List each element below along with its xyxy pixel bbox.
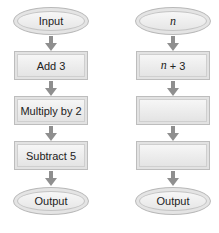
arrow-down-icon	[45, 171, 57, 186]
step-label	[137, 97, 209, 124]
arrow-down-icon	[167, 171, 179, 186]
left-flowchart: Input Add 3 Multiply by 2 Subtract 5 Out…	[13, 0, 89, 233]
step-label: Multiply by 2	[15, 97, 87, 124]
right-flowchart: n n + 3 Output	[135, 0, 211, 233]
variable-input-terminal: n	[135, 7, 211, 35]
input-terminal: Input	[13, 7, 89, 35]
arrow-down-icon	[167, 36, 179, 51]
step-add-3: Add 3	[14, 51, 88, 80]
step-blank-1	[136, 96, 210, 125]
arrow-down-icon	[45, 81, 57, 96]
arrow-down-icon	[167, 126, 179, 141]
output-terminal: Output	[13, 187, 89, 215]
expression-label: n + 3	[137, 52, 209, 79]
step-subtract-5: Subtract 5	[14, 141, 88, 170]
step-multiply-by-2: Multiply by 2	[14, 96, 88, 125]
step-blank-2	[136, 141, 210, 170]
step-n-plus-3: n + 3	[136, 51, 210, 80]
output-label: Output	[14, 188, 88, 214]
step-label: Add 3	[15, 52, 87, 79]
arrow-down-icon	[167, 81, 179, 96]
variable-label: n	[136, 8, 210, 34]
arrow-down-icon	[45, 126, 57, 141]
output-label: Output	[136, 188, 210, 214]
step-label	[137, 142, 209, 169]
output-terminal: Output	[135, 187, 211, 215]
arrow-down-icon	[45, 36, 57, 51]
step-label: Subtract 5	[15, 142, 87, 169]
input-label: Input	[14, 8, 88, 34]
